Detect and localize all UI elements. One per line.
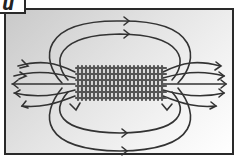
field-lines-left-fan <box>12 60 75 108</box>
solenoid-field-diagram <box>0 0 238 165</box>
arrow-icon <box>162 104 172 110</box>
solenoid-coil <box>76 66 166 100</box>
field-lines-right-fan <box>163 62 226 109</box>
arrow-icon <box>70 103 80 110</box>
